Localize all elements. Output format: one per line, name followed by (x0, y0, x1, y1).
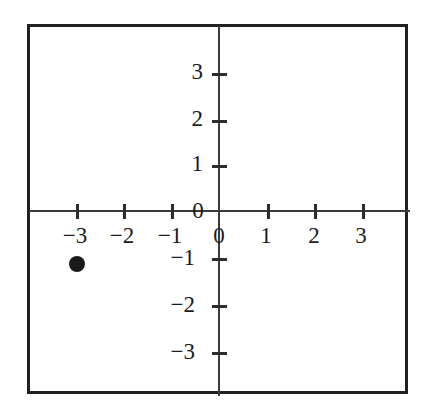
x-tick-neg3 (76, 204, 79, 219)
y-tick-pos1 (212, 165, 227, 168)
y-axis-label-pos1: 1 (163, 152, 203, 175)
data-point-marker (69, 256, 85, 272)
y-tick-pos3 (212, 73, 227, 76)
y-axis-label-pos2: 2 (163, 107, 203, 130)
x-axis-label-neg2: −2 (102, 224, 142, 247)
x-tick-pos3 (362, 204, 365, 219)
y-axis-label-neg1: −1 (155, 246, 195, 269)
x-axis-label-pos1: 1 (246, 224, 286, 247)
y-tick-neg1 (212, 258, 227, 261)
y-axis-line (218, 26, 220, 396)
coordinate-plane-figure: −3 −2 −1 1 2 3 3 2 1 −1 −2 −3 0 0 (0, 0, 424, 413)
x-tick-pos1 (267, 204, 270, 219)
x-axis-label-neg1: −1 (150, 224, 190, 247)
origin-label-on-x-axis: 0 (209, 224, 229, 247)
x-tick-neg2 (123, 204, 126, 219)
y-axis-label-neg3: −3 (155, 340, 195, 363)
y-axis-label-neg2: −2 (155, 293, 195, 316)
x-tick-neg1 (171, 204, 174, 219)
x-axis-label-pos2: 2 (294, 224, 334, 247)
x-axis-label-pos3: 3 (341, 224, 381, 247)
plot-frame-border (27, 24, 408, 394)
y-tick-neg3 (212, 352, 227, 355)
x-tick-pos2 (314, 204, 317, 219)
origin-label-on-y-axis: 0 (188, 199, 208, 222)
y-tick-neg2 (212, 305, 227, 308)
x-axis-label-neg3: −3 (55, 224, 95, 247)
y-tick-pos2 (212, 120, 227, 123)
y-axis-label-pos3: 3 (163, 60, 203, 83)
